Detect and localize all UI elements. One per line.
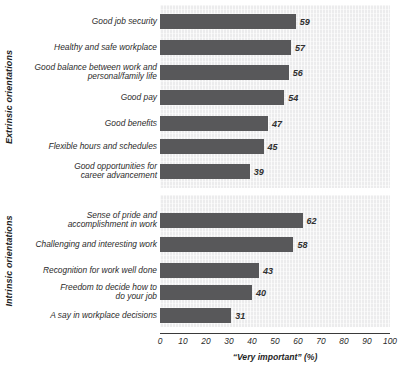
- bar: [160, 237, 293, 252]
- x-tick-label: 70: [316, 336, 325, 346]
- bar-value-label: 56: [293, 68, 303, 78]
- bar-row: Good benefits 47: [160, 116, 390, 131]
- bar: [160, 263, 259, 278]
- bar-category-label: Challenging and interesting work: [17, 240, 157, 250]
- bar-row: Sense of pride and accomplishment in wor…: [160, 213, 390, 228]
- bar-row: Challenging and interesting work 58: [160, 237, 390, 252]
- bar-category-label: Good pay: [17, 93, 157, 103]
- bar: [160, 65, 289, 80]
- bar-category-label: Recognition for work well done: [17, 266, 157, 276]
- bar: [160, 40, 291, 55]
- bar: [160, 308, 231, 323]
- bar-value-label: 47: [272, 119, 282, 129]
- bar-value-label: 39: [254, 167, 264, 177]
- x-tick-label: 0: [158, 336, 163, 346]
- bar: [160, 90, 284, 105]
- x-tick-label: 90: [362, 336, 371, 346]
- bar-category-label: Good job security: [17, 17, 157, 27]
- bar: [160, 139, 264, 154]
- x-tick-label: 100: [383, 336, 397, 346]
- x-tick-label: 40: [247, 336, 256, 346]
- bar-category-label: Flexible hours and schedules: [17, 142, 157, 152]
- bar: [160, 164, 250, 179]
- bar-value-label: 43: [263, 266, 273, 276]
- bar-value-label: 40: [256, 288, 266, 298]
- bar-value-label: 62: [307, 216, 317, 226]
- bar: [160, 14, 296, 29]
- x-axis-title: “Very important” (%): [160, 352, 390, 362]
- bar-value-label: 31: [235, 311, 245, 321]
- plot-panel-extrinsic: Good job security 59 Healthy and safe wo…: [160, 5, 390, 188]
- bar-value-label: 57: [295, 43, 305, 53]
- bar-chart-figure: Extrinsic orientations Intrinsic orienta…: [0, 0, 406, 378]
- plot-panel-intrinsic: Sense of pride and accomplishment in wor…: [160, 195, 390, 327]
- x-tick-label: 80: [339, 336, 348, 346]
- group-axis-title-extrinsic-text: Extrinsic orientations: [4, 49, 14, 143]
- x-tick-label: 30: [224, 336, 233, 346]
- bar-row: Recognition for work well done 43: [160, 263, 390, 278]
- group-axis-title-extrinsic: Extrinsic orientations: [0, 5, 18, 188]
- x-axis-tick-labels: 0102030405060708090100: [160, 336, 390, 348]
- bar-row: Good opportunities for career advancemen…: [160, 164, 390, 179]
- group-axis-title-intrinsic-text: Intrinsic orientations: [4, 215, 14, 306]
- bar-category-label: Healthy and safe workplace: [17, 43, 157, 53]
- bar-value-label: 58: [297, 240, 307, 250]
- bar-category-label: Good opportunities for career advancemen…: [17, 162, 157, 181]
- bar-category-label: A say in workplace decisions: [17, 311, 157, 321]
- bar-row: Healthy and safe workplace 57: [160, 40, 390, 55]
- bar: [160, 116, 268, 131]
- group-axis-title-intrinsic: Intrinsic orientations: [0, 195, 18, 327]
- bar-value-label: 45: [268, 142, 278, 152]
- x-tick-label: 60: [293, 336, 302, 346]
- bar-row: Flexible hours and schedules 45: [160, 139, 390, 154]
- bar-row: Good balance between work and personal/f…: [160, 65, 390, 80]
- bar-value-label: 59: [300, 17, 310, 27]
- x-tick-label: 10: [178, 336, 187, 346]
- bar: [160, 213, 303, 228]
- bar-row: Good pay 54: [160, 90, 390, 105]
- x-axis-line: [160, 333, 390, 334]
- bar-category-label: Good balance between work and personal/f…: [17, 63, 157, 82]
- x-tick-label: 50: [270, 336, 279, 346]
- bar-category-label: Freedom to decide how to do your job: [17, 283, 157, 302]
- bar-row: Freedom to decide how to do your job 40: [160, 285, 390, 300]
- bar-row: Good job security 59: [160, 14, 390, 29]
- bar-category-label: Good benefits: [17, 119, 157, 129]
- bar-category-label: Sense of pride and accomplishment in wor…: [17, 211, 157, 230]
- bar-row: A say in workplace decisions 31: [160, 308, 390, 323]
- bar-value-label: 54: [288, 93, 298, 103]
- x-tick-label: 20: [201, 336, 210, 346]
- bar: [160, 285, 252, 300]
